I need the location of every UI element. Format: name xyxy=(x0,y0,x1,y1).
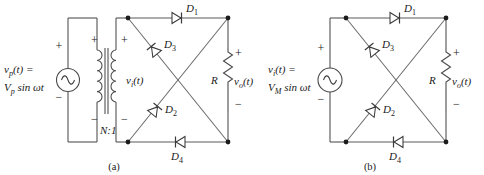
diode-d1-b xyxy=(390,13,400,24)
source-label-a: vp(t) = Vp sin ωt xyxy=(4,63,45,96)
diode-d2-label-b: D2 xyxy=(382,103,395,118)
transformer-primary-minus-a: − xyxy=(91,112,98,126)
source-vp-rest-a: sin ωt xyxy=(15,81,45,93)
diode-d4-b xyxy=(394,137,404,148)
load-resistor-label-a: R xyxy=(210,74,218,86)
ac-source-icon-b xyxy=(318,68,342,92)
svg-text:vp(t) =: vp(t) = xyxy=(4,63,33,78)
source-v-rest-b: (t) = xyxy=(275,63,296,76)
diode-d4-a xyxy=(176,137,186,148)
diode-d4-label-a: D4 xyxy=(170,150,183,165)
load-resistor-a xyxy=(224,48,233,112)
diode-d1-label-b: D1 xyxy=(403,2,416,17)
diode-d1-a xyxy=(172,13,182,24)
source-plus-a: + xyxy=(56,39,63,53)
source-minus-a: − xyxy=(56,90,63,104)
diode-d1-label-a: D1 xyxy=(185,2,198,17)
diode-d4-label-b: D4 xyxy=(388,150,401,165)
diode-d3-label-b: D3 xyxy=(381,38,394,53)
source-plus-b: + xyxy=(318,41,325,55)
panel-b: + − vi(t) = VM sin ωt xyxy=(268,2,472,173)
source-vm-rest-b: sin ωt xyxy=(281,81,311,93)
svg-text:Vp sin ωt: Vp sin ωt xyxy=(4,81,45,96)
output-plus-b: + xyxy=(453,46,460,60)
caption-b: (b) xyxy=(364,161,377,173)
source-minus-b: − xyxy=(318,92,325,106)
load-resistor-b xyxy=(442,48,451,112)
output-voltage-label-a: vo(t) xyxy=(234,75,254,90)
output-minus-a: − xyxy=(235,97,242,111)
svg-text:VM sin ωt: VM sin ωt xyxy=(268,81,312,96)
output-minus-b: − xyxy=(453,97,460,111)
output-plus-a: + xyxy=(235,46,242,60)
source-v-rest-a: (t) = xyxy=(13,63,34,76)
rectifier-figure: + − vp(t) = Vp sin ωt + − + − xyxy=(0,0,484,175)
caption-a: (a) xyxy=(108,161,120,173)
output-voltage-label-b: vo(t) xyxy=(452,75,472,90)
transformer-secondary-minus-a: − xyxy=(121,112,128,126)
svg-text:vi(t) =: vi(t) = xyxy=(268,63,296,78)
diode-d2-label-a: D2 xyxy=(164,103,177,118)
load-resistor-label-b: R xyxy=(428,74,436,86)
diode-d3-a xyxy=(147,43,162,57)
transformer-a xyxy=(97,48,116,114)
transformer-ratio-a: N:1 xyxy=(99,124,117,136)
ac-source-icon-a xyxy=(57,69,80,92)
transformer-primary-plus-a: + xyxy=(91,33,98,47)
diode-d3-label-a: D3 xyxy=(163,38,176,53)
panel-a: + − vp(t) = Vp sin ωt + − + − xyxy=(4,2,254,173)
diode-d3-b xyxy=(365,43,380,57)
transformer-secondary-voltage-a: vi(t) xyxy=(126,74,144,89)
source-label-b: vi(t) = VM sin ωt xyxy=(268,63,312,96)
transformer-secondary-plus-a: + xyxy=(121,33,128,47)
